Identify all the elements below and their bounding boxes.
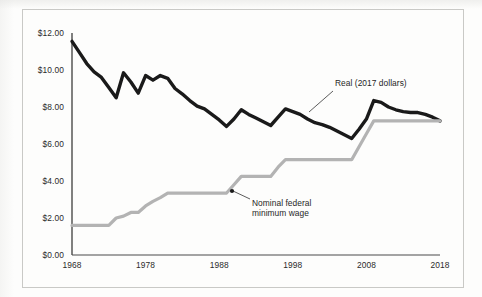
figure-container: $0.00$2.00$4.00$6.00$8.00$10.00$12.00 19… xyxy=(0,0,482,297)
y-axis-tick-label: $4.00 xyxy=(20,176,64,186)
y-axis-tick-label: $10.00 xyxy=(20,65,64,75)
x-axis-tick-label: 1988 xyxy=(195,260,243,270)
y-axis-tick-label: $6.00 xyxy=(20,139,64,149)
nominal-series-callout-leader-line xyxy=(233,191,250,199)
x-axis-tick-label: 1998 xyxy=(269,260,317,270)
y-axis-tick-label: $8.00 xyxy=(20,102,64,112)
y-axis-tick-label: $12.00 xyxy=(20,28,64,38)
annotation-real-2017-dollars: Real (2017 dollars) xyxy=(335,78,407,88)
axes-group xyxy=(72,33,440,255)
series-line-real xyxy=(72,41,440,138)
x-axis-tick-label: 2008 xyxy=(342,260,390,270)
real-series-callout-leader-line xyxy=(309,91,333,112)
y-axis-tick-label: $0.00 xyxy=(20,250,64,260)
x-axis-tick-label: 2018 xyxy=(416,260,464,270)
annotation-nominal-federal-minimum-wage: Nominal federalminimum wage xyxy=(252,198,311,219)
annotation-leaders-group xyxy=(230,91,333,199)
y-axis-tick-label: $2.00 xyxy=(20,213,64,223)
chart-plot xyxy=(0,0,482,297)
annotation-nominal-line-1: Nominal federal xyxy=(252,198,311,208)
annotation-nominal-line-2: minimum wage xyxy=(252,208,311,218)
nominal-series-callout-marker-dot xyxy=(230,189,234,193)
x-axis-tick-label: 1978 xyxy=(122,260,170,270)
x-axis-tick-label: 1968 xyxy=(48,260,96,270)
